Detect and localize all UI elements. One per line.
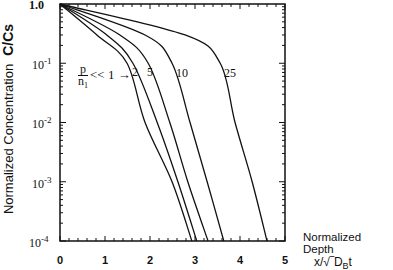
curve-label-5: 5 (147, 65, 153, 80)
x-axis-variable: x/√‾DBt (314, 255, 352, 270)
x-tick-2: 2 (147, 254, 153, 266)
y-tick-1: 1.0 (29, 0, 44, 13)
x-tick-4: 4 (237, 254, 243, 266)
curve-label-1: << 1 → (90, 67, 131, 83)
y-tick-1e-1: 10-1 (32, 56, 52, 73)
y-axis-title: Normalized ConcentrationC/Cs (0, 14, 18, 224)
param-label: pn1 (78, 64, 88, 91)
axis-ticks (60, 4, 285, 241)
y-axis-variable: C/Cs (0, 24, 16, 56)
y-tick-1e-3: 10-3 (32, 175, 52, 192)
curve-label-2: 2 (132, 65, 138, 80)
x-tick-1: 1 (102, 254, 108, 266)
x-tick-3: 3 (192, 254, 198, 266)
curve-4 (60, 4, 224, 241)
axes-frame (60, 4, 285, 241)
y-tick-1e-2: 10-2 (32, 115, 52, 132)
curve-label-10: 10 (176, 66, 188, 81)
curve-5 (60, 4, 267, 241)
y-tick-1e-4: 10-4 (29, 234, 49, 251)
curve-label-25: 25 (224, 66, 236, 81)
curve-2 (60, 4, 197, 241)
curves (60, 4, 267, 241)
plot-area (0, 0, 393, 270)
x-tick-0: 0 (57, 254, 63, 266)
x-tick-5: 5 (282, 254, 288, 266)
y-axis-label: Normalized Concentration (1, 64, 16, 214)
x-axis-title: Normalized Depth (303, 231, 393, 255)
